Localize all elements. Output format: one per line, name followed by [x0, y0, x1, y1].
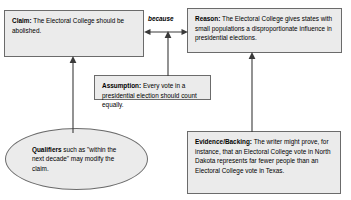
node-assumption[interactable]: Assumption: Every vote in a presidential… [94, 75, 211, 100]
node-evidence-label: Evidence/Backing [195, 138, 250, 145]
connector-assumption-to-link [161, 31, 175, 76]
diagram-canvas: Claim: The Electoral College should be a… [0, 0, 351, 200]
node-assumption-text: Assumption: Every vote in a presidential… [95, 76, 210, 114]
node-evidence-backing[interactable]: Evidence/Backing: The writer might prove… [187, 131, 341, 194]
node-claim-text: Claim: The Electoral College should be a… [5, 11, 143, 39]
node-qualifiers[interactable]: Qualifiers such as "within the next deca… [5, 128, 148, 190]
connector-evidence-to-reason [245, 52, 259, 132]
node-claim-label: Claim [12, 17, 29, 24]
node-reason-label: Reason [195, 15, 218, 22]
node-reason[interactable]: Reason: The Electoral College gives stat… [187, 8, 342, 53]
node-claim[interactable]: Claim: The Electoral College should be a… [4, 10, 144, 57]
node-evidence-text: Evidence/Backing: The writer might prove… [188, 132, 340, 179]
node-qualifiers-label: Qualifiers [32, 146, 61, 153]
node-assumption-label: Assumption [102, 82, 139, 89]
node-reason-text: Reason: The Electoral College gives stat… [188, 9, 341, 47]
connector-label-because: because [148, 15, 174, 22]
node-qualifiers-text: Qualifiers such as "within the next deca… [6, 145, 147, 174]
connector-qualifiers-to-claim [66, 56, 80, 133]
